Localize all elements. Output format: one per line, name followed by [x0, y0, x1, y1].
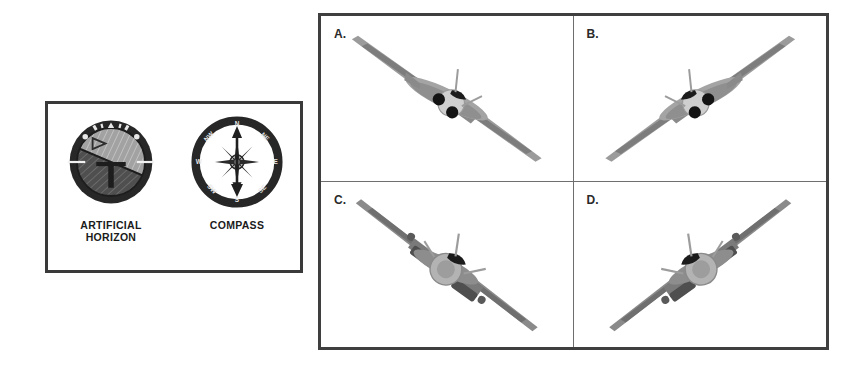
jet-aircraft-pods-icon	[321, 182, 573, 348]
artificial-horizon-caption-line2: HORIZON	[80, 231, 141, 243]
aircraft-choice-d[interactable]: D.	[574, 182, 827, 348]
aircraft-choice-c-label: C.	[334, 193, 346, 207]
artificial-horizon-icon	[65, 116, 157, 212]
svg-text:S: S	[235, 196, 240, 203]
aircraft-choice-d-label: D.	[587, 193, 599, 207]
aircraft-choice-b[interactable]: B.	[574, 16, 827, 182]
jet-aircraft-icon	[574, 16, 827, 181]
compass-instrument: N S W E NW NE SW SE	[191, 116, 283, 231]
artificial-horizon-instrument: ARTIFICIAL HORIZON	[65, 116, 157, 243]
instruments-row: ARTIFICIAL HORIZON N S W E NW	[48, 104, 300, 270]
svg-text:E: E	[273, 158, 278, 165]
jet-aircraft-pods-icon	[574, 182, 827, 348]
compass-icon: N S W E NW NE SW SE	[191, 116, 283, 212]
svg-text:W: W	[196, 158, 203, 165]
aircraft-choice-c[interactable]: C.	[321, 182, 574, 348]
aircraft-grid-inner: A.	[321, 16, 826, 347]
compass-caption: COMPASS	[210, 219, 264, 231]
instrument-panel-box: ARTIFICIAL HORIZON N S W E NW	[45, 101, 303, 273]
aircraft-choice-a-label: A.	[334, 27, 346, 41]
aircraft-grid-box: A.	[318, 13, 829, 350]
aircraft-choice-a[interactable]: A.	[321, 16, 574, 182]
svg-text:N: N	[235, 120, 240, 127]
compass-caption-line1: COMPASS	[210, 219, 264, 231]
jet-aircraft-icon	[321, 16, 573, 181]
aircraft-choice-b-label: B.	[587, 27, 599, 41]
artificial-horizon-caption-line1: ARTIFICIAL	[80, 219, 141, 231]
artificial-horizon-caption: ARTIFICIAL HORIZON	[80, 219, 141, 243]
